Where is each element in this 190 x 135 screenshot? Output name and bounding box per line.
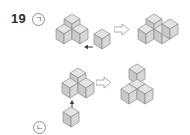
cube (94, 29, 110, 49)
base-shape-b (57, 63, 99, 103)
problem-row-b: ㄴ (0, 58, 190, 135)
added-cube-a (93, 28, 113, 50)
added-cube-b (62, 106, 82, 128)
transform-arrow-b (96, 75, 112, 93)
cube (63, 107, 79, 127)
problem-row-a: ㄱ (0, 0, 190, 58)
sub-problem-label-nieun: ㄴ (33, 121, 46, 134)
result-shape-b (116, 59, 166, 107)
worksheet-page: 19 ㄱ (0, 0, 190, 135)
result-shape-a (133, 9, 185, 49)
sub-problem-label-giyeok: ㄱ (32, 13, 45, 26)
transform-arrow-a (114, 22, 130, 40)
